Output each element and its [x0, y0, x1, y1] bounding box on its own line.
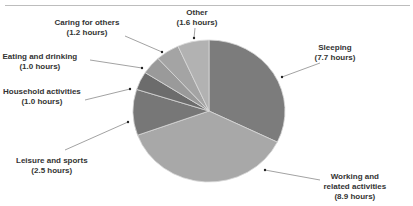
pie-slices [133, 40, 285, 182]
slice-label: Other(1.6 hours) [177, 8, 218, 28]
slice-label: Sleeping(7.7 hours) [315, 43, 356, 63]
leader-line [90, 60, 142, 68]
slice-label: Eating and drinking(1.0 hours) [3, 52, 78, 72]
slice-label: Working andrelated activities(8.9 hours) [324, 172, 387, 202]
leader-line [265, 170, 320, 180]
leader-line [125, 36, 162, 52]
leader-line [194, 28, 195, 38]
slice-label: Household activities(1.0 hours) [3, 87, 81, 107]
slice-label: Caring for others(1.2 hours) [55, 18, 120, 38]
leader-line [282, 63, 320, 77]
leader-line [85, 89, 130, 100]
slice-label: Leisure and sports(2.5 hours) [16, 156, 88, 176]
leader-line [65, 122, 128, 150]
